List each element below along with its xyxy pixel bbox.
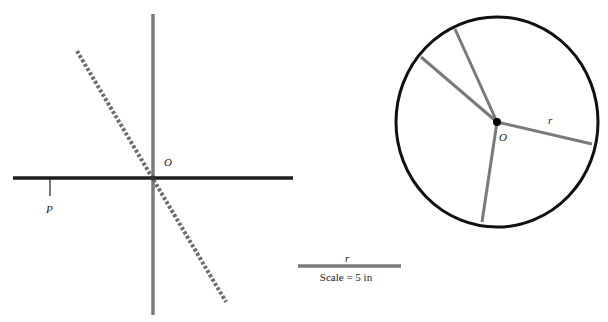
point-p-label: P (45, 203, 53, 215)
scale-caption: Scale = 5 in (320, 271, 373, 283)
axes-diagram: O P (13, 14, 293, 315)
spoke (455, 29, 497, 122)
spoke (421, 57, 497, 122)
geometry-figure: O P O r r Scale = 5 in (0, 0, 608, 322)
origin-label: O (164, 156, 172, 168)
spoke (482, 122, 497, 222)
center-label: O (499, 131, 507, 143)
origin-point (151, 176, 156, 181)
radius-label: r (548, 114, 553, 126)
radius-spoke (497, 122, 592, 144)
center-dot (493, 118, 501, 126)
scale-bar: r Scale = 5 in (298, 252, 401, 283)
circle-diagram: O r (396, 17, 598, 227)
scale-radius-label: r (345, 252, 350, 264)
